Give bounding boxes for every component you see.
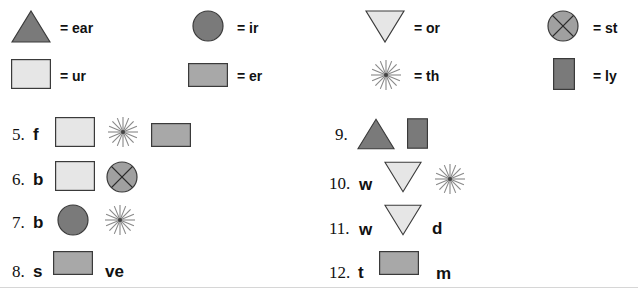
triangle-up-icon — [11, 10, 51, 43]
exercise-number: 5. — [12, 126, 25, 144]
key-label-ir: = ir — [237, 20, 258, 36]
triangle-up-icon — [357, 118, 395, 150]
exercise-suffix: ve — [105, 263, 124, 281]
triangle-down-icon — [384, 204, 422, 236]
key-label-ur: = ur — [60, 68, 86, 84]
exercise-number: 8. — [12, 263, 25, 281]
light-rectangle-icon — [55, 161, 95, 191]
light-rectangle-icon — [11, 58, 51, 90]
circle-icon — [57, 204, 89, 236]
exercise-suffix: d — [432, 220, 442, 238]
key-label-or: = or — [414, 20, 440, 36]
key-label-er: = er — [237, 68, 262, 84]
starburst-icon — [107, 116, 139, 148]
key-label-th: = th — [414, 68, 439, 84]
medium-rectangle-icon — [53, 251, 93, 275]
triangle-down-icon — [365, 10, 405, 43]
exercise-suffix: m — [436, 265, 451, 283]
medium-rectangle-icon — [151, 123, 191, 147]
exercise-letter: b — [33, 171, 43, 189]
medium-rectangle-icon — [379, 251, 419, 275]
exercise-letter: w — [359, 221, 372, 239]
starburst-icon — [104, 204, 136, 236]
triangle-down-icon — [384, 161, 422, 193]
medium-rectangle-icon — [188, 63, 228, 87]
starburst-icon — [434, 163, 466, 195]
circle-icon — [192, 10, 224, 42]
key-label-ly: = ly — [593, 68, 617, 84]
exercise-number: 6. — [12, 171, 25, 189]
exercise-letter: s — [33, 263, 42, 281]
exercise-letter: f — [33, 126, 39, 144]
tall-rectangle-icon — [407, 118, 428, 149]
exercise-number: 7. — [12, 214, 25, 232]
light-rectangle-icon — [55, 117, 95, 147]
key-label-ear: = ear — [60, 20, 93, 36]
crossed-circle-icon — [547, 10, 579, 42]
exercise-number: 11. — [329, 220, 350, 238]
exercise-number: 9. — [335, 126, 348, 144]
tall-rectangle-icon — [553, 58, 575, 90]
crossed-circle-icon — [106, 161, 138, 193]
key-label-st: = st — [593, 20, 618, 36]
exercise-letter: w — [359, 176, 372, 194]
exercise-letter: b — [33, 214, 43, 232]
starburst-icon — [370, 59, 402, 91]
exercise-number: 10. — [329, 175, 350, 193]
exercise-letter: t — [358, 264, 364, 282]
bottom-divider — [0, 287, 638, 288]
exercise-number: 12. — [329, 264, 350, 282]
